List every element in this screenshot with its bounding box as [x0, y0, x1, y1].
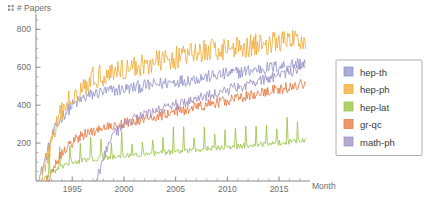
legend-swatch-hep-ph[interactable]	[344, 85, 353, 94]
legend-swatch-gr-qc[interactable]	[344, 120, 353, 129]
y-tick-label: 600	[17, 62, 31, 72]
legend-swatch-math-ph[interactable]	[344, 137, 353, 146]
x-tick-label: 1995	[63, 184, 82, 194]
legend-label-hep-lat[interactable]: hep-lat	[360, 102, 389, 113]
legend-label-math-ph[interactable]: math-ph	[360, 137, 395, 148]
papers-by-category-line-chart: # Papers 200400600800 199520002005201020…	[0, 0, 429, 214]
x-axis-title: Month	[312, 181, 336, 191]
legend-label-gr-qc[interactable]: gr-qc	[360, 119, 382, 130]
y-tick-label: 200	[17, 138, 31, 148]
legend-swatch-hep-lat[interactable]	[344, 102, 353, 111]
y-tick-label: 400	[17, 100, 31, 110]
x-tick-label: 2015	[270, 184, 289, 194]
legend: hep-thhep-phhep-latgr-qcmath-ph	[336, 60, 422, 156]
x-tick-label: 2005	[166, 184, 185, 194]
x-tick-label: 2000	[114, 184, 133, 194]
legend-label-hep-th[interactable]: hep-th	[360, 67, 387, 78]
legend-swatch-hep-th[interactable]	[344, 67, 353, 76]
legend-label-hep-ph[interactable]: hep-ph	[360, 84, 390, 95]
chart-container: # Papers 200400600800 199520002005201020…	[0, 0, 429, 214]
y-tick-label: 800	[17, 24, 31, 34]
x-tick-label: 2010	[218, 184, 237, 194]
y-axis-title: # Papers	[17, 3, 51, 13]
